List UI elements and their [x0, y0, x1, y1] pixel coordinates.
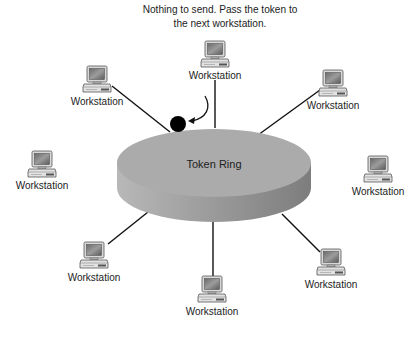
computer-icon	[319, 70, 347, 96]
link-upper-right	[258, 90, 320, 135]
workstation-label: Workstation	[68, 272, 121, 283]
curved-arrow-icon	[188, 96, 208, 124]
workstation-label: Workstation	[352, 186, 405, 197]
workstation-label: Workstation	[305, 279, 358, 290]
computer-icon	[201, 41, 229, 67]
workstation-lower-left[interactable]: Workstation	[68, 242, 121, 283]
workstation-right[interactable]: Workstation	[352, 156, 405, 197]
token-icon	[170, 116, 186, 132]
computer-icon	[198, 276, 226, 302]
workstation-label: Workstation	[307, 100, 360, 111]
token-ring: Token Ring	[117, 129, 311, 222]
workstation-label: Workstation	[189, 70, 242, 81]
workstation-left[interactable]: Workstation	[16, 151, 69, 191]
workstation-label: Workstation	[186, 306, 239, 317]
link-lower-left	[108, 212, 148, 244]
workstation-label: Workstation	[71, 96, 124, 107]
link-lower-right	[282, 214, 320, 252]
workstation-bottom[interactable]: Workstation	[186, 276, 239, 317]
workstation-top[interactable]: Workstation	[189, 41, 242, 81]
workstation-label: Workstation	[16, 180, 69, 191]
computer-icon	[80, 242, 108, 268]
computer-icon	[83, 66, 111, 92]
workstation-upper-left[interactable]: Workstation	[71, 66, 124, 107]
computer-icon	[317, 249, 345, 275]
computer-icon	[364, 156, 392, 182]
workstation-upper-right[interactable]: Workstation	[307, 70, 360, 111]
computer-icon	[28, 151, 56, 177]
ring-label: Token Ring	[186, 158, 241, 170]
workstation-lower-right[interactable]: Workstation	[305, 249, 358, 290]
link-upper-left	[112, 86, 170, 132]
token-ring-diagram: Token Ring Workstation Workstation Works…	[0, 0, 420, 338]
